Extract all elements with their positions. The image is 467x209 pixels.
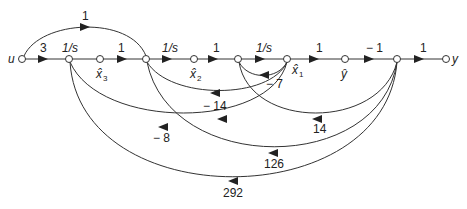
node-yhat bbox=[342, 56, 349, 63]
node-n5 bbox=[235, 56, 242, 63]
gain-minus14: − 14 bbox=[203, 99, 227, 113]
arrow-icon bbox=[217, 115, 227, 123]
gain-x3-n3: 1 bbox=[118, 41, 125, 55]
gain-x1-yhat: 1 bbox=[316, 41, 323, 55]
node-n8 bbox=[394, 56, 401, 63]
arrow-icon bbox=[255, 55, 265, 63]
gain-126: 126 bbox=[264, 157, 284, 171]
gain-n5-x1: 1/s bbox=[256, 41, 272, 55]
gain-n1-x3: 1/s bbox=[62, 41, 78, 55]
gain-n3-x2: 1/s bbox=[162, 41, 178, 55]
feedback-branch-292 bbox=[70, 62, 397, 177]
gain-minus8: − 8 bbox=[153, 131, 170, 145]
arrow-icon bbox=[228, 177, 238, 185]
arrow-icon bbox=[364, 55, 374, 63]
arrow-icon bbox=[208, 55, 218, 63]
gain-u-n1: 3 bbox=[40, 41, 47, 55]
gain-n8-y: 1 bbox=[420, 41, 427, 55]
signal-flow-graph: u y x̂ 3 x̂ 2 x̂ 1 ŷ 3 1/s 1 1/s 1 1/s 1… bbox=[0, 0, 467, 209]
gain-x2-n5: 1 bbox=[213, 41, 220, 55]
label-u: u bbox=[8, 52, 15, 66]
arrow-icon bbox=[309, 55, 319, 63]
label-x1-sub: 1 bbox=[299, 70, 304, 79]
label-x3: x̂ bbox=[95, 67, 103, 81]
node-x1 bbox=[284, 56, 291, 63]
gain-minus7: − 7 bbox=[266, 77, 283, 91]
node-y bbox=[443, 56, 450, 63]
arrow-icon bbox=[117, 55, 127, 63]
node-n3 bbox=[143, 56, 150, 63]
arrow-icon bbox=[268, 149, 278, 157]
arrow-icon bbox=[38, 55, 48, 63]
label-x1: x̂ bbox=[291, 63, 299, 77]
node-u bbox=[19, 56, 26, 63]
arrow-icon bbox=[162, 55, 172, 63]
label-x2-sub: 2 bbox=[197, 74, 202, 83]
arrow-icon bbox=[158, 123, 168, 131]
node-n1 bbox=[66, 56, 73, 63]
node-x2 bbox=[191, 56, 198, 63]
feedback-branch-minus8 bbox=[70, 62, 287, 113]
gain-14: 14 bbox=[313, 122, 327, 136]
gain-yhat-n8: − 1 bbox=[366, 41, 383, 55]
label-y: y bbox=[451, 52, 459, 66]
label-yhat: ŷ bbox=[340, 67, 348, 81]
feedback-branch-14 bbox=[239, 62, 397, 113]
label-x2: x̂ bbox=[189, 67, 197, 81]
label-x3-sub: 3 bbox=[103, 74, 108, 83]
graph-svg: u y x̂ 3 x̂ 2 x̂ 1 ŷ 3 1/s 1 1/s 1 1/s 1… bbox=[0, 0, 467, 209]
gain-292: 292 bbox=[223, 186, 243, 200]
arrow-icon bbox=[80, 23, 90, 31]
node-x3 bbox=[97, 56, 104, 63]
arrow-icon bbox=[414, 55, 424, 63]
gain-feedforward: 1 bbox=[82, 9, 89, 23]
